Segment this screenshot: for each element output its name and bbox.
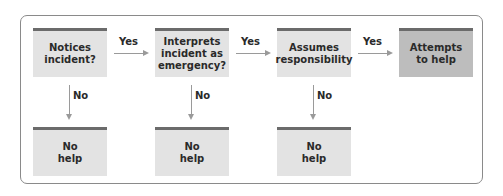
yes-label-3: Yes: [363, 36, 382, 47]
no-label-3: No: [317, 90, 332, 101]
step-notices-incident: Notices incident?: [33, 28, 107, 77]
no-label-2: No: [195, 90, 210, 101]
no-arrow-2: [191, 85, 192, 115]
outcome-no-help-2: No help: [155, 127, 229, 176]
yes-label-2: Yes: [241, 36, 260, 47]
yes-label-1: Yes: [119, 36, 138, 47]
no-label-1: No: [73, 90, 88, 101]
no-arrow-1: [69, 85, 70, 115]
outcome-no-help-1: No help: [33, 127, 107, 176]
step-assumes-responsibility: Assumes responsibility: [277, 28, 351, 77]
yes-arrow-2: [236, 53, 266, 54]
yes-arrow-1: [114, 53, 144, 54]
step-interprets-emergency: Interprets incident as emergency?: [155, 28, 229, 77]
outcome-no-help-3: No help: [277, 127, 351, 176]
step-attempts-to-help: Attempts to help: [399, 28, 473, 77]
yes-arrow-3: [358, 53, 388, 54]
no-arrow-3: [313, 85, 314, 115]
